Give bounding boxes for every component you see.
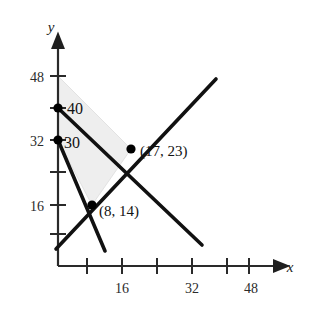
y-axis-label: y xyxy=(46,19,55,35)
point-intersection-17-23 xyxy=(126,144,135,153)
x-tick-label-32: 32 xyxy=(185,281,199,296)
y-tick-label-48: 48 xyxy=(30,70,44,85)
point-y-intercept-40 xyxy=(53,103,62,112)
graph-figure: y x 48 32 16 16 32 48 40 30 (17, 23) (8,… xyxy=(0,0,314,321)
point-intersection-8-14 xyxy=(87,200,96,209)
x-axis-label: x xyxy=(286,259,294,275)
point-label-30: 30 xyxy=(64,134,80,151)
point-y-intercept-30 xyxy=(53,135,62,144)
x-tick-label-16: 16 xyxy=(115,281,129,296)
y-tick-label-16: 16 xyxy=(30,199,44,214)
coordinate-plot: y x 48 32 16 16 32 48 40 30 (17, 23) (8,… xyxy=(0,0,314,321)
point-label-40: 40 xyxy=(67,100,83,117)
x-tick-label-48: 48 xyxy=(244,281,258,296)
point-label-8-14: (8, 14) xyxy=(99,203,139,220)
y-tick-label-32: 32 xyxy=(30,134,44,149)
point-label-17-23: (17, 23) xyxy=(140,143,188,160)
